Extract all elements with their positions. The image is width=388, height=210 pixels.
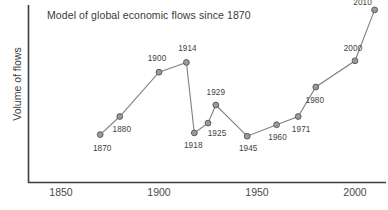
chart-container: Model of global economic flows since 187… <box>0 0 388 210</box>
data-point-label: 1870 <box>93 144 112 153</box>
x-axis-tick-label: 1850 <box>49 186 72 198</box>
x-axis-tick-label: 2000 <box>343 186 366 198</box>
data-point-label: 2000 <box>344 44 363 53</box>
data-series <box>97 7 377 139</box>
data-point-label: 1960 <box>268 133 287 142</box>
data-point-marker[interactable] <box>156 69 162 75</box>
data-point-label: 1925 <box>208 129 227 138</box>
data-point-marker[interactable] <box>184 60 190 66</box>
data-point-marker[interactable] <box>213 102 219 108</box>
data-point-label: 1880 <box>112 125 131 134</box>
plot-area <box>0 0 388 210</box>
data-point-marker[interactable] <box>313 84 319 90</box>
series-line <box>100 10 374 136</box>
data-point-marker[interactable] <box>244 133 250 139</box>
data-point-label: 1980 <box>305 96 324 105</box>
data-point-marker[interactable] <box>191 130 197 136</box>
x-axis-tick-label: 1950 <box>245 186 268 198</box>
data-point-label: 1971 <box>292 125 311 134</box>
data-point-label: 1945 <box>239 144 258 153</box>
data-point-marker[interactable] <box>274 122 280 128</box>
data-point-label: 1929 <box>207 88 226 97</box>
data-point-marker[interactable] <box>205 120 211 126</box>
data-point-marker[interactable] <box>97 132 103 138</box>
data-point-label: 2010 <box>353 0 372 7</box>
data-point-marker[interactable] <box>372 7 378 13</box>
x-axis-tick-label: 1900 <box>147 186 170 198</box>
data-point-marker[interactable] <box>117 114 123 120</box>
data-point-marker[interactable] <box>352 58 358 64</box>
data-point-label: 1914 <box>178 44 197 53</box>
data-point-label: 1918 <box>184 141 203 150</box>
data-point-label: 1900 <box>148 54 167 63</box>
data-point-marker[interactable] <box>295 114 301 120</box>
